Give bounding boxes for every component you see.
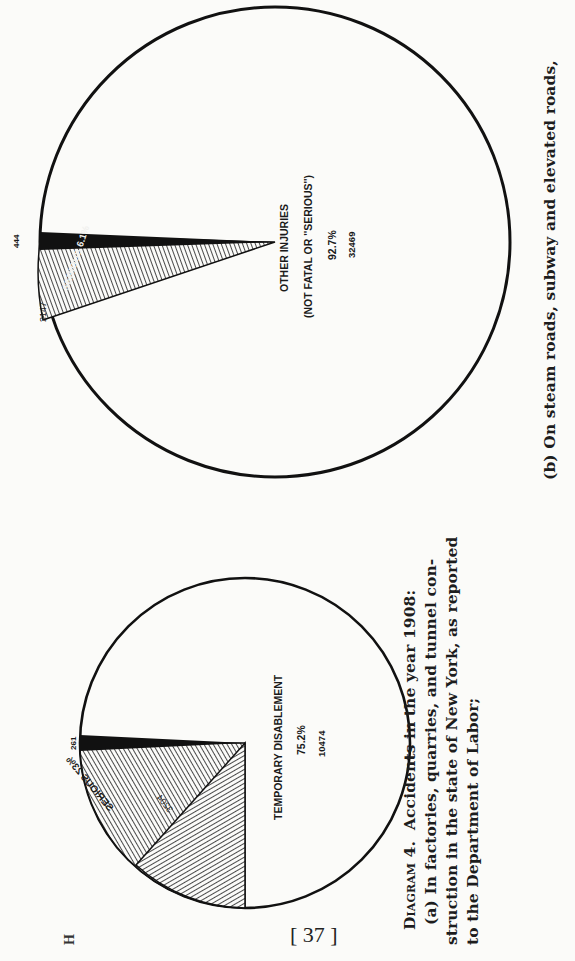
pie-a-other-label: TEMPORARY DISABLEMENT — [272, 675, 284, 820]
caption-label: Diagram 4. — [400, 841, 419, 930]
pie-chart-b — [38, 7, 510, 477]
caption-a-line-3: to the Department of Labor; — [463, 698, 482, 945]
pie-b-other-percent: 92.7% — [326, 230, 338, 260]
pie-a-fatal-count: 261 — [69, 737, 78, 750]
pie-chart-a — [80, 578, 410, 908]
pie-b-fatal-count: 444 — [12, 235, 21, 248]
pie-a-other-percent: 75.2% — [295, 725, 307, 755]
diagram-figure — [0, 0, 575, 961]
pie-b-serious-count: 2147 — [38, 302, 48, 322]
pie-a-other-count: 10474 — [316, 731, 327, 757]
caption-b-line: (b) On steam roads, subway and elevated … — [540, 60, 559, 480]
caption-title: Accidents in the year 1908: — [400, 590, 419, 830]
caption-a-line-2: struction in the state of New York, as r… — [442, 537, 461, 945]
pie-b-other-sublabel: (NOT FATAL OR ''SERIOUS'') — [302, 175, 314, 318]
pie-b-other-count: 32469 — [346, 232, 357, 258]
page-number: [ 37 ] — [290, 922, 338, 948]
caption-a-line-1: (a) In factories, quarries, and tunnel c… — [421, 559, 440, 925]
signature-mark: H — [62, 934, 78, 945]
caption-heading: Diagram 4. Accidents in the year 1908: — [400, 590, 419, 930]
pie-b-other-label: OTHER INJURIES — [278, 204, 290, 292]
